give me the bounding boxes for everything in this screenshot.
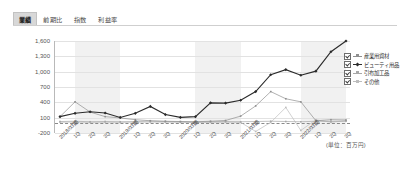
series-marker-0-12 [240,115,242,117]
series-marker-1-8 [179,116,182,119]
series-marker-2-14 [270,120,272,122]
legend-checkbox-1[interactable] [344,61,351,68]
performance-chart-panel: 業績前期比指数利益率 1,6001,3001,000700400100-200 … [0,0,410,170]
tab-0[interactable]: 業績 [13,12,37,25]
series-marker-0-6 [150,120,152,122]
tab-3[interactable]: 利益率 [92,12,123,25]
y-tick-label-3: 700 [40,84,50,90]
legend-label-1: ビューティ用品 [364,61,399,69]
series-marker-1-15 [284,68,287,71]
series-marker-0-15 [285,98,287,100]
series-marker-1-2 [89,110,92,113]
series-marker-2-2 [89,121,91,123]
unit-note: (単位：百万円) [326,141,366,149]
legend-item-1[interactable]: ビューティ用品 [344,61,404,70]
series-marker-0-11 [225,120,227,122]
y-tick-label-6: -200 [38,130,50,136]
legend-label-2: 引布加工品 [364,69,389,77]
series-marker-0-16 [300,101,302,103]
chart-tab-bar: 業績前期比指数利益率 [13,12,397,26]
legend-item-2[interactable]: 引布加工品 [344,69,404,78]
series-layer [55,41,351,133]
series-line-3 [60,107,346,131]
legend-checkbox-3[interactable] [344,78,351,85]
series-marker-0-3 [104,116,106,118]
series-marker-0-14 [270,91,272,93]
series-marker-1-4 [119,116,122,119]
legend-item-3[interactable]: その他 [344,78,404,87]
legend-label-0: 産業用資材 [364,52,389,60]
chart-legend: 産業用資材ビューティ用品引布加工品その他 [344,52,404,86]
series-marker-0-19 [345,119,347,121]
legend-marker-icon-2 [353,70,362,76]
series-marker-0-7 [165,120,167,122]
tab-1[interactable]: 前期比 [37,12,68,25]
y-tick-label-5: 100 [40,115,50,121]
series-marker-0-10 [210,120,212,122]
y-tick-label-1: 1,300 [35,53,50,59]
series-marker-1-3 [104,112,107,115]
legend-checkbox-0[interactable] [344,53,351,60]
y-tick-label-4: 400 [40,99,50,105]
y-tick-label-2: 1,000 [35,69,50,75]
series-marker-2-4 [119,121,121,123]
legend-checkbox-2[interactable] [344,70,351,77]
series-marker-0-8 [180,121,182,123]
series-marker-1-1 [73,112,76,115]
legend-marker-icon-0 [353,53,362,59]
chart-container: 1,6001,3001,000700400100-200 2018/03期1Q2… [8,36,402,161]
plot-area [54,41,350,133]
series-marker-0-1 [74,101,76,103]
series-marker-1-16 [299,74,302,77]
tab-2[interactable]: 指数 [68,12,92,25]
series-marker-2-12 [240,121,242,123]
series-marker-2-0 [59,121,61,123]
series-marker-1-11 [224,102,227,105]
series-marker-2-15 [285,121,287,123]
x-axis-labels: 2018/03期1Q2Q3Q2019/03期1Q2Q3Q2020/03期1Q2Q… [54,135,350,161]
legend-marker-icon-1 [353,62,362,68]
series-marker-0-13 [255,105,257,107]
series-line-1 [60,41,346,117]
series-marker-2-18 [330,121,332,123]
series-marker-2-16 [300,121,302,123]
legend-label-3: その他 [364,78,379,86]
y-axis-labels: 1,6001,3001,000700400100-200 [8,36,52,138]
series-marker-2-3 [104,121,106,123]
legend-item-0[interactable]: 産業用資材 [344,52,404,61]
legend-marker-icon-3 [353,79,362,85]
y-tick-label-0: 1,600 [35,38,50,44]
series-line-0 [60,92,346,122]
series-marker-3-15 [285,107,287,109]
series-marker-0-18 [330,119,332,121]
